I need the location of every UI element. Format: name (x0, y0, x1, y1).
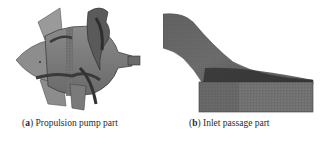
figure-caption-text-a: Propulsion pump part (35, 118, 117, 128)
figure-label-a: a (25, 118, 30, 128)
figure-caption-text-b: Inlet passage part (203, 118, 269, 128)
figure-label-b: b (192, 118, 197, 128)
figure-caption-b: (b) Inlet passage part (189, 118, 270, 128)
figure-caption-a: (a) Propulsion pump part (22, 118, 118, 128)
inlet-passage-mesh-image (163, 0, 326, 115)
propulsion-pump-mesh-image (0, 0, 163, 115)
figure-panel-propulsion-pump: (a) Propulsion pump part (0, 0, 163, 143)
figure-panel-inlet-passage: (b) Inlet passage part (163, 0, 326, 143)
